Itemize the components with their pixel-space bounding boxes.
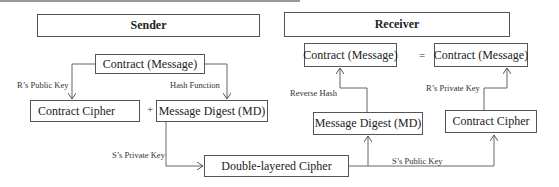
equals-operator: = [419,49,425,61]
sender-message-digest-node: Message Digest (MD) [156,100,268,122]
edge-label-s-private-key: S’s Private Key [112,150,165,160]
receiver-contract-message-right-node: Contract (Message) [434,43,528,67]
receiver-contract-cipher-node: Contract Cipher [445,110,537,133]
sender-contract-message-node: Contract (Message) [95,54,205,74]
edge-label-r-private-key: R’s Private Key [426,83,480,93]
edge-label-reverse-hash: Reverse Hash [290,88,337,98]
receiver-header: Receiver [284,12,510,37]
receiver-contract-message-left-node: Contract (Message) [304,43,397,67]
edge-label-s-public-key: S’s Public Key [392,156,443,166]
sender-header: Sender [37,14,260,37]
receiver-message-digest-node: Message Digest (MD) [313,112,423,135]
sender-contract-cipher-node: Contract Cipher [30,100,140,122]
edge-label-hash-function: Hash Function [170,80,220,90]
plus-operator: + [147,103,153,115]
double-layered-cipher-node: Double-layered Cipher [204,155,349,177]
edge-label-r-public-key: R’s Public Key [17,80,68,90]
